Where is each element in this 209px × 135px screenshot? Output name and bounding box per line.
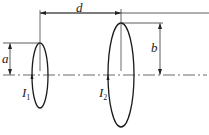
label-a: a: [2, 52, 9, 65]
label-b-text: b: [151, 40, 158, 55]
label-a-text: a: [2, 51, 9, 66]
label-I2-sub: 2: [103, 93, 107, 102]
label-I1: I1: [22, 86, 30, 102]
current-1-arrow-icon: [31, 74, 34, 80]
label-I1-sub: 1: [26, 93, 30, 102]
label-b: b: [151, 41, 158, 54]
label-d: d: [76, 1, 83, 14]
loop-1: [31, 10, 49, 108]
label-d-text: d: [76, 0, 83, 15]
loop-2: [107, 9, 135, 127]
label-I2: I2: [99, 86, 107, 102]
coaxial-loops-diagram: [0, 0, 209, 135]
